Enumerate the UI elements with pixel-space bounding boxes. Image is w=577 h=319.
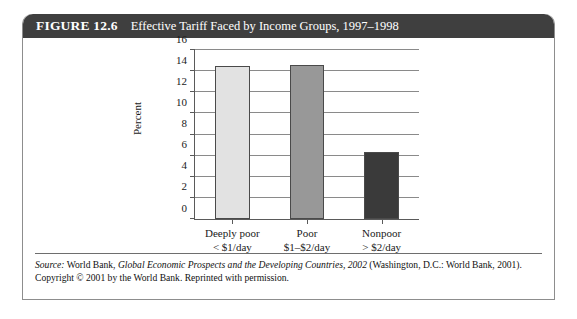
y-tick xyxy=(190,197,195,198)
bar xyxy=(290,65,325,219)
figure-number: FIGURE 12.6 xyxy=(36,18,118,34)
figure-card: FIGURE 12.6 Effective Tariff Faced by In… xyxy=(22,14,555,300)
y-tick-label: 2 xyxy=(182,180,188,192)
y-tick xyxy=(190,155,195,156)
plot-area: 0246810121416 Deeply poor< $1/dayPoor$1–… xyxy=(194,50,419,220)
y-tick-label: 14 xyxy=(176,54,187,66)
y-tick-label: 6 xyxy=(182,138,188,150)
y-tick xyxy=(190,176,195,177)
x-category-sublabel: < $1/day xyxy=(205,241,260,255)
y-tick-label: 16 xyxy=(176,33,187,45)
y-tick-label: 12 xyxy=(176,75,187,87)
figure-header: FIGURE 12.6 Effective Tariff Faced by In… xyxy=(23,14,554,38)
bar xyxy=(364,152,399,219)
source-divider xyxy=(35,253,542,254)
source-note: Source: World Bank, Global Economic Pros… xyxy=(35,259,542,284)
source-text-1: World Bank, xyxy=(64,259,117,270)
y-tick xyxy=(190,49,195,50)
x-axis-category: Nonpoor> $2/day xyxy=(362,227,401,254)
y-tick xyxy=(190,70,195,71)
source-label: Source: xyxy=(35,259,64,270)
y-tick xyxy=(190,112,195,113)
y-tick-label: 8 xyxy=(182,117,188,129)
x-tick xyxy=(382,219,383,224)
x-axis-category: Poor$1–$2/day xyxy=(284,227,330,254)
y-tick xyxy=(190,218,195,219)
x-category-label: Nonpoor xyxy=(362,227,401,241)
y-tick xyxy=(190,91,195,92)
y-tick xyxy=(190,134,195,135)
figure-title: Effective Tariff Faced by Income Groups,… xyxy=(131,19,399,34)
y-axis-title: Percent xyxy=(131,102,143,135)
x-tick xyxy=(307,219,308,224)
x-category-label: Deeply poor xyxy=(205,227,260,241)
x-category-sublabel: > $2/day xyxy=(362,241,401,255)
gridline xyxy=(195,49,419,50)
x-tick xyxy=(232,219,233,224)
plot-frame: 0246810121416 Deeply poor< $1/dayPoor$1–… xyxy=(194,50,419,220)
y-tick-label: 4 xyxy=(182,159,188,171)
bar xyxy=(215,66,250,219)
x-category-sublabel: $1–$2/day xyxy=(284,241,330,255)
y-tick-label: 10 xyxy=(176,96,187,108)
x-category-label: Poor xyxy=(284,227,330,241)
chart-area: Percent 0246810121416 Deeply poor< $1/da… xyxy=(23,38,554,260)
y-tick-label: 0 xyxy=(182,202,188,214)
source-work-title: Global Economic Prospects and the Develo… xyxy=(118,259,367,270)
x-axis-category: Deeply poor< $1/day xyxy=(205,227,260,254)
